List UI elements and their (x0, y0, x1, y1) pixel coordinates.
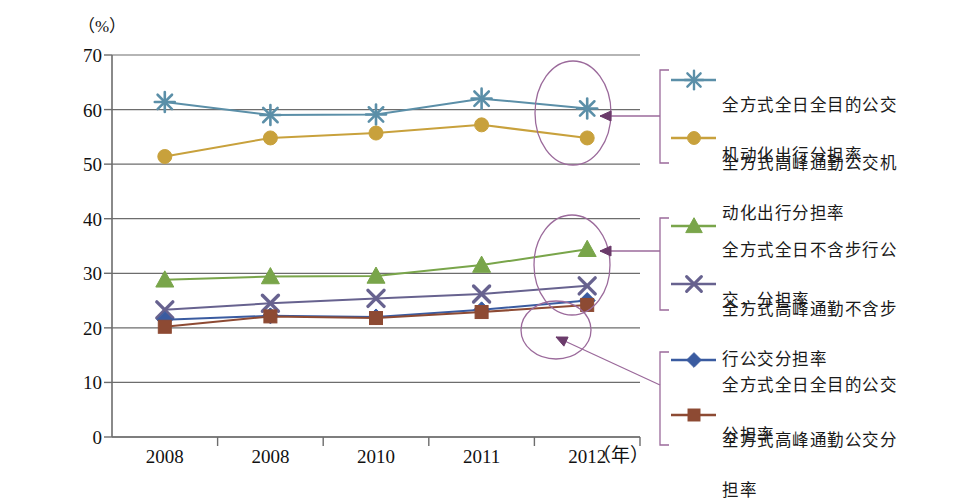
legend-marker-0 (671, 71, 716, 89)
legend-marker-1 (671, 132, 716, 145)
legend-marker-layer (671, 71, 716, 421)
y-tick-label-70: 70 (83, 45, 102, 66)
marker-circle (475, 118, 489, 132)
marker-square (370, 312, 383, 325)
marker-circle (263, 131, 277, 145)
legend-marker-5 (671, 409, 716, 421)
annotation-ellipse-bottom (521, 301, 591, 359)
marker-circle (580, 131, 594, 145)
annotation-ellipse-middle (534, 215, 610, 315)
annotation-layer (521, 61, 669, 445)
marker-star (685, 71, 703, 89)
legend-marker-2 (671, 218, 716, 233)
marker-triangle (578, 240, 596, 256)
y-axis-unit-label: （%） (78, 17, 126, 36)
series-2 (156, 240, 596, 287)
y-tick-label-30: 30 (83, 263, 102, 284)
annotation-arrow-top (600, 111, 660, 121)
y-tick-label-10: 10 (83, 372, 102, 393)
x-tick-label-2: 2010 (357, 446, 395, 467)
legend-label-3-line1: 全方式高峰通勤不含步 (722, 300, 897, 319)
y-tick-label-50: 50 (83, 154, 102, 175)
marker-circle (688, 132, 701, 145)
marker-square (475, 306, 488, 319)
y-tick-label-20: 20 (83, 318, 102, 339)
marker-circle (369, 126, 383, 140)
marker-square (688, 409, 700, 421)
legend-label-5: 全方式高峰通勤公交分 担率 (722, 403, 962, 502)
y-tick-label-60: 60 (83, 100, 102, 121)
marker-square (581, 298, 594, 311)
marker-circle (158, 150, 172, 164)
legend-label-0-line1: 全方式全日全目的公交 (722, 96, 897, 115)
x-tick-label-3: 2011 (463, 446, 500, 467)
marker-star (155, 92, 175, 112)
legend-bracket-bottom (660, 352, 669, 445)
series-0 (155, 89, 597, 125)
marker-star (577, 98, 597, 118)
legend-label-4-line1: 全方式全日全目的公交 (722, 376, 897, 395)
y-tick-labels: 706050403020100 (83, 45, 112, 448)
x-tick-labels: 20082008201020112012 (146, 446, 606, 467)
legend-marker-4 (671, 353, 716, 368)
legend-bracket-middle (660, 218, 669, 310)
legend-bracket-top (660, 70, 669, 163)
x-tick-label-1: 2008 (251, 446, 289, 467)
marker-star (472, 89, 492, 109)
marker-diamond (687, 353, 702, 368)
marker-square (158, 320, 171, 333)
marker-square (264, 310, 277, 323)
annotation-ellipse-top (535, 61, 611, 165)
y-tick-label-0: 0 (93, 427, 103, 448)
legend-label-2-line1: 全方式全日不含步行公 (722, 241, 897, 260)
legend-label-5-line1: 全方式高峰通勤公交分 (722, 431, 897, 450)
legend-label-1: 全方式高峰通勤公交机 动化出行分担率 (722, 126, 962, 226)
data-series-layer (155, 89, 597, 334)
legend-label-5-line2: 担率 (722, 481, 757, 500)
marker-star (366, 104, 386, 124)
x-tick-label-0: 2008 (146, 446, 184, 467)
legend-marker-3 (671, 277, 716, 292)
y-tick-label-40: 40 (83, 209, 102, 230)
x-tick-marks (218, 437, 640, 446)
x-axis-unit-label: （年） (592, 445, 649, 466)
annotation-arrow-middle (600, 246, 660, 256)
marker-star (260, 105, 280, 125)
annotation-arrow-bottom (556, 337, 660, 385)
legend-label-1-line1: 全方式高峰通勤公交机 (722, 154, 897, 173)
